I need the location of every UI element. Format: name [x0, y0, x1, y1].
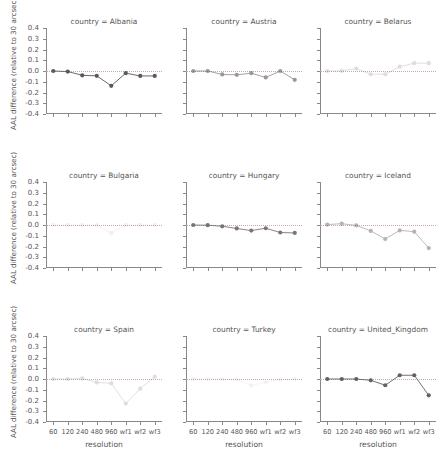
- y-tick-label: -0.4: [25, 264, 39, 272]
- x-tick-label: 120: [201, 428, 214, 436]
- x-tick-label: wf1: [120, 428, 132, 436]
- data-point: [340, 222, 344, 226]
- data-point: [220, 377, 224, 381]
- data-point: [369, 72, 373, 76]
- x-tick: [266, 268, 267, 271]
- y-tick-label: 0.3: [28, 189, 39, 197]
- panel-title: country = Bulgaria: [46, 171, 162, 180]
- data-point: [278, 69, 282, 73]
- data-point: [220, 72, 224, 76]
- y-tick: -0.4: [43, 422, 46, 423]
- data-point: [383, 237, 387, 241]
- y-tick-label: 0.2: [28, 354, 39, 362]
- data-point: [249, 228, 253, 232]
- data-point: [278, 230, 282, 234]
- data-point: [80, 376, 84, 380]
- x-tick: 120: [208, 422, 209, 425]
- y-tick: -0.4: [43, 268, 46, 269]
- data-point: [325, 69, 329, 73]
- data-point: [398, 65, 402, 69]
- x-tick-label: 60: [323, 428, 331, 436]
- y-tick-label: -0.3: [25, 407, 39, 415]
- y-tick: [183, 422, 186, 423]
- y-tick-label: -0.2: [25, 89, 39, 97]
- data-point: [383, 383, 387, 387]
- data-point: [124, 401, 128, 405]
- x-tick: [68, 268, 69, 271]
- data-point: [340, 69, 344, 73]
- data-point: [124, 71, 128, 75]
- plot-area: [186, 182, 302, 268]
- plot-area: 0.40.30.20.10.0-0.1-0.2-0.3-0.4: [46, 182, 162, 268]
- x-tick: [429, 268, 430, 271]
- data-point: [340, 377, 344, 381]
- x-tick: 960: [385, 422, 386, 425]
- x-tick-label: 240: [350, 428, 363, 436]
- x-tick-label: 60: [49, 428, 57, 436]
- data-point: [191, 377, 195, 381]
- x-tick: [140, 268, 141, 271]
- x-tick: [356, 268, 357, 271]
- x-tick: 480: [97, 422, 98, 425]
- data-point: [138, 387, 142, 391]
- x-tick-label: 240: [76, 428, 89, 436]
- x-tick: [429, 114, 430, 117]
- facet-panel-spain: country = Spain0.40.30.20.10.0-0.1-0.2-0…: [46, 336, 162, 422]
- x-tick-label: wf3: [149, 428, 161, 436]
- x-tick-label: wf2: [408, 428, 420, 436]
- plot-area: 60120240480960wf1wf2wf3: [186, 336, 302, 422]
- data-point: [109, 84, 113, 88]
- panel-title: country = Albania: [46, 17, 162, 26]
- data-point: [51, 69, 55, 73]
- y-tick: [183, 268, 186, 269]
- data-point: [427, 61, 431, 65]
- x-tick: [385, 268, 386, 271]
- x-tick-label: wf2: [274, 428, 286, 436]
- data-point: [153, 223, 157, 227]
- y-tick: [317, 422, 320, 423]
- data-point: [354, 377, 358, 381]
- x-tick: [222, 268, 223, 271]
- y-tick-label: -0.4: [25, 110, 39, 118]
- x-tick: [237, 268, 238, 271]
- data-point: [278, 377, 282, 381]
- series-path: [327, 224, 429, 248]
- x-tick: 240: [222, 422, 223, 425]
- x-tick: wf2: [140, 422, 141, 425]
- y-tick-label: -0.4: [25, 418, 39, 426]
- series-line-bulgaria: [46, 182, 162, 268]
- x-tick: [280, 114, 281, 117]
- data-point: [153, 74, 157, 78]
- panel-title: country = Iceland: [320, 171, 436, 180]
- x-tick: [342, 114, 343, 117]
- y-tick-label: -0.2: [25, 397, 39, 405]
- x-axis-label: resolution: [46, 440, 162, 449]
- x-tick-label: wf3: [289, 428, 301, 436]
- series-line-iceland: [320, 182, 436, 268]
- data-point: [153, 375, 157, 379]
- x-tick: wf3: [429, 422, 430, 425]
- data-point: [80, 73, 84, 77]
- y-tick-label: 0.4: [28, 178, 39, 186]
- data-point: [220, 224, 224, 228]
- x-tick: 60: [53, 422, 54, 425]
- x-tick: [356, 114, 357, 117]
- x-tick: 240: [356, 422, 357, 425]
- x-tick: [266, 114, 267, 117]
- y-tick-label: 0.4: [28, 332, 39, 340]
- x-tick: wf3: [155, 422, 156, 425]
- series-line-belarus: [320, 28, 436, 114]
- plot-area: [186, 28, 302, 114]
- y-axis-label: AAL difference (relative to 30 arcsec): [9, 8, 18, 130]
- x-tick-label: 240: [216, 428, 229, 436]
- x-tick: [385, 114, 386, 117]
- data-point: [427, 246, 431, 250]
- panel-title: country = Belarus: [320, 17, 436, 26]
- y-tick-label: 0.4: [28, 24, 39, 32]
- series-line-hungary: [186, 182, 302, 268]
- x-tick: 480: [237, 422, 238, 425]
- data-point: [109, 231, 113, 235]
- data-point: [264, 380, 268, 384]
- y-tick-label: 0.1: [28, 210, 39, 218]
- x-tick: [126, 114, 127, 117]
